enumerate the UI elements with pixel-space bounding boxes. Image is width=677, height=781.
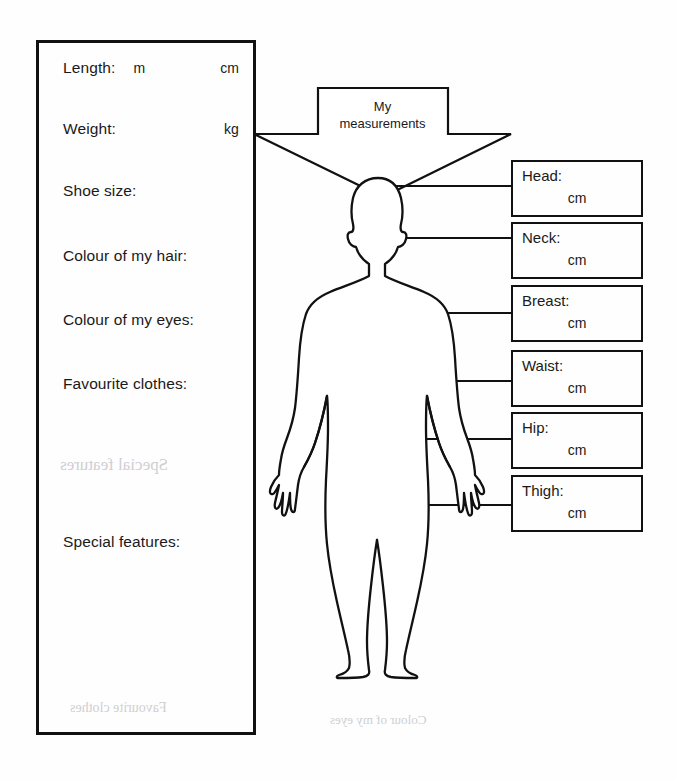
detail-row-hair-colour[interactable]: Colour of my hair: bbox=[39, 247, 253, 265]
measure-label: Waist: bbox=[522, 357, 563, 374]
measure-box-waist[interactable]: Waist: cm bbox=[511, 350, 643, 407]
detail-unit-kg: kg bbox=[224, 121, 239, 137]
detail-label: Colour of my hair: bbox=[63, 247, 187, 265]
measure-box-head[interactable]: Head: cm bbox=[511, 160, 643, 217]
measure-label: Neck: bbox=[522, 229, 560, 246]
worksheet-page: Special features Favourite clothes Colou… bbox=[0, 0, 677, 781]
measure-box-thigh[interactable]: Thigh: cm bbox=[511, 475, 643, 532]
measure-unit: cm bbox=[513, 252, 641, 268]
detail-unit-m: m bbox=[133, 60, 145, 76]
detail-label: Colour of my eyes: bbox=[63, 311, 194, 329]
measure-unit: cm bbox=[513, 190, 641, 206]
detail-label: Length: bbox=[63, 59, 115, 77]
detail-row-length[interactable]: Length: m cm bbox=[39, 59, 253, 77]
detail-label: Special features: bbox=[63, 533, 180, 551]
personal-details-panel: Length: m cm Weight: kg Shoe size: Colou… bbox=[36, 40, 256, 735]
measure-box-breast[interactable]: Breast: cm bbox=[511, 285, 643, 342]
measure-box-neck[interactable]: Neck: cm bbox=[511, 222, 643, 279]
measure-label: Breast: bbox=[522, 292, 570, 309]
detail-unit-cm: cm bbox=[220, 60, 239, 76]
measure-unit: cm bbox=[513, 505, 641, 521]
ghost-text: Colour of my eyes bbox=[330, 712, 426, 728]
detail-label: Shoe size: bbox=[63, 182, 136, 200]
measure-label: Head: bbox=[522, 167, 562, 184]
detail-label: Favourite clothes: bbox=[63, 375, 187, 393]
detail-row-weight[interactable]: Weight: kg bbox=[39, 120, 253, 138]
measure-box-hip[interactable]: Hip: cm bbox=[511, 412, 643, 469]
measure-unit: cm bbox=[513, 380, 641, 396]
measure-unit: cm bbox=[513, 442, 641, 458]
measure-label: Thigh: bbox=[522, 482, 564, 499]
body-outline-icon bbox=[268, 172, 488, 682]
measure-label: Hip: bbox=[522, 419, 549, 436]
detail-row-eye-colour[interactable]: Colour of my eyes: bbox=[39, 311, 253, 329]
detail-row-favourite-clothes[interactable]: Favourite clothes: bbox=[39, 375, 253, 393]
body-figure bbox=[268, 172, 488, 682]
detail-row-shoe-size[interactable]: Shoe size: bbox=[39, 182, 253, 200]
detail-label: Weight: bbox=[63, 120, 116, 138]
measure-unit: cm bbox=[513, 315, 641, 331]
detail-row-special-features[interactable]: Special features: bbox=[39, 533, 253, 551]
